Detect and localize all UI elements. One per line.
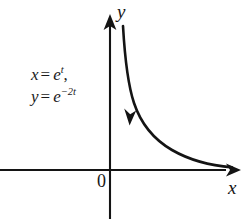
equation-line-y: y=e−2t (31, 86, 76, 108)
equation-x-equals: = (41, 65, 51, 84)
curve-direction-arrowhead (124, 109, 136, 126)
equation-y-base: e (53, 87, 61, 106)
plot-canvas (0, 0, 250, 219)
x-axis-label: x (228, 178, 236, 197)
exponential-decay-curve (123, 26, 232, 167)
parametric-curve-figure: y x 0 x=et, y=e−2t (0, 0, 250, 219)
parametric-equations-annotation: x=et, y=e−2t (31, 64, 76, 109)
equation-line-x: x=et, (31, 64, 76, 86)
equation-y-exponent: −2t (61, 87, 76, 98)
equation-x-trailing: , (64, 65, 68, 84)
equation-y-equals: = (41, 87, 51, 106)
y-axis-label: y (117, 2, 125, 21)
origin-label: 0 (97, 172, 106, 190)
equation-y-lhs: y (31, 87, 39, 106)
x-axis-arrowhead (226, 163, 241, 176)
equation-x-lhs: x (31, 65, 39, 84)
equation-x-base: e (53, 65, 61, 84)
